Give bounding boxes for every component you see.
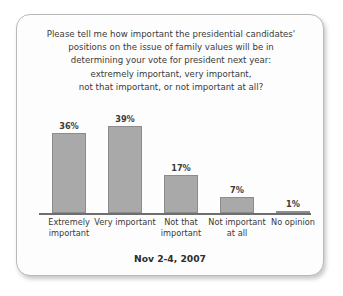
bar-group-extremely-important: 36% Extremely important — [41, 111, 97, 213]
bar-group-not-important-at-all: 7% Not important at all — [209, 111, 265, 213]
bar-rect[interactable] — [164, 175, 198, 213]
bar-rect[interactable] — [276, 211, 310, 213]
bar-rect[interactable] — [220, 197, 254, 213]
bar-category-line: Not important — [205, 217, 269, 228]
question-line-5: not that important, or not important at … — [27, 81, 315, 94]
bar-category-label: Extremely important — [37, 217, 101, 238]
bar-rect[interactable] — [108, 126, 142, 213]
bar-category-line: Very important — [93, 217, 157, 228]
bar-category-line: Extremely — [37, 217, 101, 228]
bar-value-label: 39% — [97, 114, 153, 124]
bar-category-line: No opinion — [261, 217, 325, 228]
question-line-3: determining your vote for president next… — [27, 54, 315, 67]
bar-category-label: No opinion — [261, 217, 325, 228]
bar-group-not-that-important: 17% Not that important — [153, 111, 209, 213]
bar-value-label: 1% — [265, 199, 321, 209]
bar-category-label: Not that important — [149, 217, 213, 238]
question-title: Please tell me how important the preside… — [27, 28, 315, 94]
x-axis-line — [39, 213, 311, 215]
bar-value-label: 36% — [41, 121, 97, 131]
question-line-2: positions on the issue of family values … — [27, 41, 315, 54]
bar-category-label: Not important at all — [205, 217, 269, 238]
bar-category-line: Not that — [149, 217, 213, 228]
bar-category-line: important — [37, 228, 101, 239]
bar-value-label: 7% — [209, 185, 265, 195]
bar-value-label: 17% — [153, 163, 209, 173]
question-line-1: Please tell me how important the preside… — [27, 28, 315, 41]
date-caption: Nov 2-4, 2007 — [17, 253, 323, 264]
bar-chart-plot-area: 36% Extremely important 39% Very importa… — [17, 111, 323, 231]
bar-category-line: at all — [205, 228, 269, 239]
bar-group-very-important: 39% Very important — [97, 111, 153, 213]
bar-group-no-opinion: 1% No opinion — [265, 111, 321, 213]
poll-chart-card: Please tell me how important the preside… — [16, 14, 324, 276]
question-line-4: extremely important, very important, — [27, 68, 315, 81]
bar-category-label: Very important — [93, 217, 157, 228]
bar-rect[interactable] — [52, 133, 86, 213]
bar-category-line: important — [149, 228, 213, 239]
